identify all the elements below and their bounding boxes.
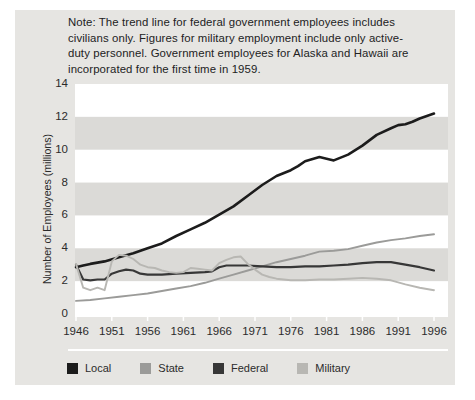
x-tick-mark [218,317,220,321]
x-tick-label: 1976 [274,325,308,337]
y-tick-label: 12 [42,110,68,122]
legend-label: State [158,362,184,374]
x-tick-label: 1986 [345,325,379,337]
y-tick-label: 6 [42,208,68,220]
x-tick-mark [290,317,292,321]
grid-band [75,183,448,216]
y-tick-label: 8 [42,176,68,188]
x-tick-label: 1996 [417,325,451,337]
legend-label: Federal [231,362,268,374]
legend-swatch-local [67,363,78,374]
x-tick-mark [433,317,435,321]
legend-swatch-military [297,363,308,374]
line-chart [0,0,475,400]
x-tick-label: 1971 [238,325,272,337]
legend-divider [68,349,448,351]
x-tick-mark [326,317,328,321]
x-tick-label: 1951 [95,325,129,337]
legend-item-local: Local [67,362,111,374]
legend-item-state: State [140,362,184,374]
x-tick-mark [183,317,185,321]
x-tick-mark [254,317,256,321]
x-tick-label: 1961 [166,325,200,337]
x-tick-label: 1981 [310,325,344,337]
x-tick-label: 1956 [131,325,165,337]
y-tick-label: 2 [42,274,68,286]
legend-item-federal: Federal [213,362,268,374]
x-tick-mark [147,317,149,321]
x-tick-mark [397,317,399,321]
legend-swatch-federal [213,363,224,374]
x-tick-label: 1946 [59,325,93,337]
y-tick-label: 4 [42,241,68,253]
x-tick-label: 1966 [202,325,236,337]
figure: Number of Employees (millions) Note: The… [0,0,475,400]
x-tick-label: 1991 [381,325,415,337]
y-tick-label: 14 [42,77,68,89]
y-tick-label: 0 [42,307,68,319]
legend: LocalStateFederalMilitary [67,361,350,375]
legend-label: Military [315,362,350,374]
y-tick-label: 10 [42,143,68,155]
x-tick-mark [362,317,364,321]
grid-band [75,117,448,150]
x-tick-mark [111,317,113,321]
legend-label: Local [85,362,111,374]
legend-item-military: Military [297,362,350,374]
legend-swatch-state [140,363,151,374]
x-tick-mark [75,317,77,321]
